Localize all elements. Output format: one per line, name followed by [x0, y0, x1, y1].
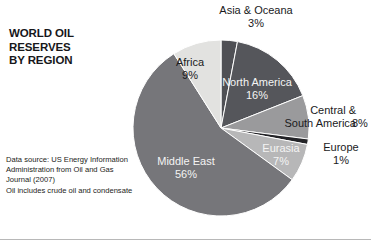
pie-chart-figure: WORLD OIL RESERVES BY REGION Data source…: [0, 0, 371, 240]
slice-label-north-america: North America 16%: [215, 76, 299, 101]
slice-label-africa: Africa 9%: [157, 56, 223, 81]
slice-label-middle-east: Middle East 56%: [142, 155, 230, 180]
slice-label-eurasia: Eurasia 7%: [254, 142, 308, 167]
slice-label-central-south-america: Central & South America: [268, 104, 356, 129]
slice-value-central-south-america: 8%: [352, 117, 368, 129]
source-note: Data source: US Energy Information Admin…: [6, 155, 134, 196]
page-title: WORLD OIL RESERVES BY REGION: [9, 27, 137, 68]
slice-label-europe: Europe 1%: [316, 141, 366, 166]
slice-label-asia: Asia & Oceana 3%: [194, 4, 318, 29]
